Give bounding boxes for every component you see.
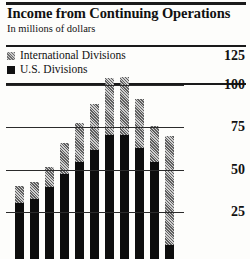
bar-segment-international xyxy=(30,182,39,199)
bar-segment-us xyxy=(30,199,39,259)
bar-8 xyxy=(120,77,129,259)
axis-tick-100: 100 xyxy=(224,78,245,92)
bar-segment-us xyxy=(90,150,99,259)
axis-tick-75: 75 xyxy=(231,120,245,134)
gridline-100 xyxy=(6,85,184,86)
bar-2 xyxy=(30,182,39,259)
axis-tick-25: 25 xyxy=(231,205,245,219)
bar-segment-us xyxy=(15,203,24,259)
bar-segment-international xyxy=(15,186,24,203)
bar-11 xyxy=(165,136,174,259)
gridline-75 xyxy=(6,127,184,128)
bar-segment-international xyxy=(150,126,159,162)
bar-1 xyxy=(15,186,24,259)
bar-segment-us xyxy=(120,135,129,259)
bar-segment-us xyxy=(75,162,84,259)
bar-segment-international xyxy=(75,123,84,162)
bar-segment-international xyxy=(135,99,144,148)
bar-9 xyxy=(135,99,144,259)
bar-segment-us xyxy=(105,135,114,259)
bar-segment-us xyxy=(150,162,159,259)
gridline-25 xyxy=(6,212,184,213)
plot-area: 100755025 xyxy=(0,0,250,259)
chart-figure: Income from Continuing Operations In mil… xyxy=(0,0,250,259)
bar-7 xyxy=(105,78,114,259)
bar-segment-us xyxy=(45,187,54,259)
bar-segment-us xyxy=(135,148,144,259)
bar-segment-international xyxy=(105,78,114,134)
bar-segment-us xyxy=(60,174,69,259)
bar-segment-us xyxy=(165,245,174,259)
bar-5 xyxy=(75,123,84,259)
bar-10 xyxy=(150,126,159,259)
axis-tick-50: 50 xyxy=(231,163,245,177)
bar-group xyxy=(15,0,185,259)
bar-4 xyxy=(60,143,69,259)
gridline-50 xyxy=(6,170,184,171)
bar-segment-international xyxy=(165,136,174,245)
